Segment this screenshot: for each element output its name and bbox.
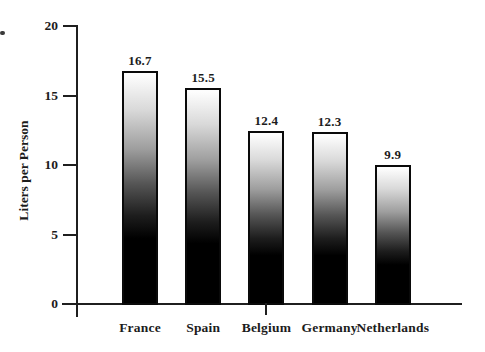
y-tick-label: 0	[30, 296, 58, 312]
y-axis-line	[76, 25, 78, 317]
bar-netherlands	[375, 165, 411, 305]
bar-germany	[312, 132, 348, 305]
y-axis-tick	[63, 164, 76, 166]
y-axis-tick	[63, 234, 76, 236]
bar-france	[122, 71, 158, 305]
y-tick-label: 20	[30, 18, 58, 34]
x-axis-tick-belgium	[265, 303, 267, 315]
bar-spain	[185, 88, 221, 305]
bar-value-label: 12.4	[241, 113, 291, 129]
bar-value-label: 12.3	[305, 114, 355, 130]
y-tick-label: 10	[30, 157, 58, 173]
y-axis-tick	[63, 25, 76, 27]
scan-artifact-dot	[0, 31, 5, 35]
bar-value-label: 9.9	[368, 147, 418, 163]
category-label: Netherlands	[345, 320, 441, 336]
bar-value-label: 16.7	[115, 53, 165, 69]
y-tick-label: 5	[30, 227, 58, 243]
bar-belgium	[248, 131, 284, 305]
bar-value-label: 15.5	[178, 70, 228, 86]
y-tick-label: 15	[30, 88, 58, 104]
y-axis-tick	[63, 303, 76, 305]
bar-chart: Liters per Person 0510152016.7France15.5…	[0, 0, 485, 352]
y-axis-tick	[63, 95, 76, 97]
